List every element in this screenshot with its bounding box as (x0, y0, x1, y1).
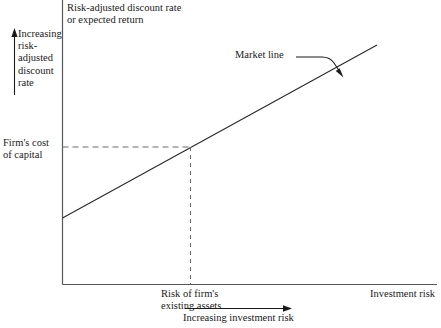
figure-canvas (0, 0, 441, 328)
y-axis-direction-caption: Increasing risk- adjusted discount rate (18, 28, 62, 89)
x-axis-title: Investment risk (370, 288, 435, 300)
cost-of-capital-label: Firm's cost of capital (3, 137, 61, 161)
x-axis-direction-caption: Increasing investment risk (183, 312, 363, 324)
arrow-pointer-icon (296, 57, 344, 78)
y-axis-title: Risk-adjusted discount rate or expected … (67, 2, 242, 26)
market-line-label: Market line (235, 49, 284, 61)
existing-assets-label: Risk of firm's existing assets (161, 288, 271, 312)
up-arrow-icon (11, 28, 17, 95)
market-line (63, 45, 378, 218)
market-line-figure: Risk-adjusted discount rate or expected … (0, 0, 441, 328)
